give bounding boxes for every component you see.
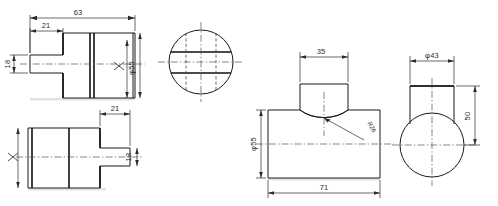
strikeout-mark-top-left [114,62,124,70]
dim-label-phi55-bottom: φ55 [249,137,258,151]
arrow-35-left [300,55,306,59]
dim-label-phi55-top: φ55 [127,61,136,75]
dim-label-21-bottom: 21 [111,104,120,113]
view-top-right [158,22,244,102]
arrow-phi55-inner-top [125,40,129,46]
arrow-63-left [30,16,37,20]
dim-label-18-top: 18 [3,60,12,69]
arrow-71-right [374,191,380,195]
arrow-phi55-outer-top [138,33,142,39]
dim-label-radius: R26 [366,120,378,134]
arrow-18-top [12,55,16,61]
arrow-left-bottom-bot [16,182,20,188]
arrow-phi43-right [448,59,454,63]
dim-label-63: 63 [74,8,83,17]
dim-label-50: 50 [463,112,472,121]
cad-drawing-canvas: 63 21 18 φ55 [0,0,498,206]
radius-leader-line [324,118,364,140]
arrow-50-top [473,86,477,92]
bottom-left-outline [28,128,130,188]
arrow-21-left [30,29,36,33]
arrow-18b-bot [135,160,139,166]
view-top-left: 63 21 18 φ55 [3,8,145,100]
radius-leader-arrow [324,118,331,123]
dim-label-71: 71 [320,183,329,192]
arrow-left-bottom-top [16,128,20,134]
arrow-18-bot [12,67,16,73]
arrow-21b-left [100,112,106,116]
arrow-phi55b-top [259,110,263,116]
arrow-21-right [57,29,63,33]
arrow-63-right [128,16,135,20]
dim-label-35: 35 [317,47,326,56]
arrow-phi43-left [410,59,416,63]
view-bottom-middle: 35 φ55 71 R26 [249,47,394,198]
view-bottom-right: φ43 50 [392,51,480,186]
dim-label-phi43: φ43 [425,51,439,60]
arrow-71-left [268,191,274,195]
view-bottom-left: 21 18 [8,104,142,190]
arrow-phi55-inner-bot [125,92,129,98]
drawing-sheet: 63 21 18 φ55 [0,0,498,206]
dim-label-18-bottom: 18 [124,153,133,162]
arrow-50-bot [473,139,477,145]
arrow-21b-right [124,112,130,116]
arrow-18b-top [135,148,139,154]
arrow-35-right [342,55,348,59]
dim-label-21-top: 21 [42,21,51,30]
arrow-phi55b-bot [259,172,263,178]
arrow-phi55-outer-bot [138,92,142,98]
